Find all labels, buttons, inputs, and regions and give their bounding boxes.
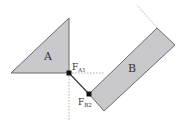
force-label-a1-sub: A1 [77,67,85,73]
body-b-label: B [128,62,136,75]
contact-point-b2 [87,92,92,97]
connecting-link [69,73,89,94]
contact-point-a1 [67,71,72,76]
force-label-b2-sub: B2 [84,102,92,108]
mechanics-diagram: A B FA1 FB2 [0,0,190,123]
force-label-b2: FB2 [78,97,92,108]
force-label-a1: FA1 [72,62,86,73]
body-a-label: A [43,50,53,63]
dashed-diagonal-line [137,5,157,28]
body-a-triangle [11,18,69,73]
